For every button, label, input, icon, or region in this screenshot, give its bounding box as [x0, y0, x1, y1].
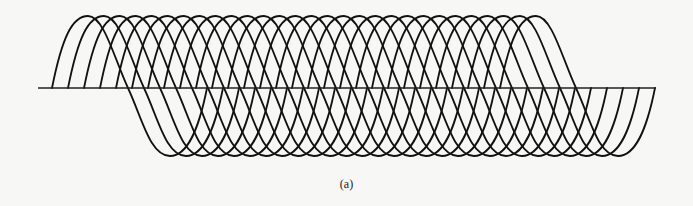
waveform-figure: [0, 0, 693, 206]
waveform-curves: [52, 16, 655, 156]
figure-caption: (a): [0, 177, 693, 192]
